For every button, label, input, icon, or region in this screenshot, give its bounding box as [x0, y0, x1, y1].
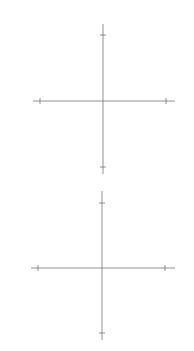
top-chart	[0, 0, 175, 174]
bottom-chart	[0, 0, 175, 340]
figure	[0, 0, 194, 351]
